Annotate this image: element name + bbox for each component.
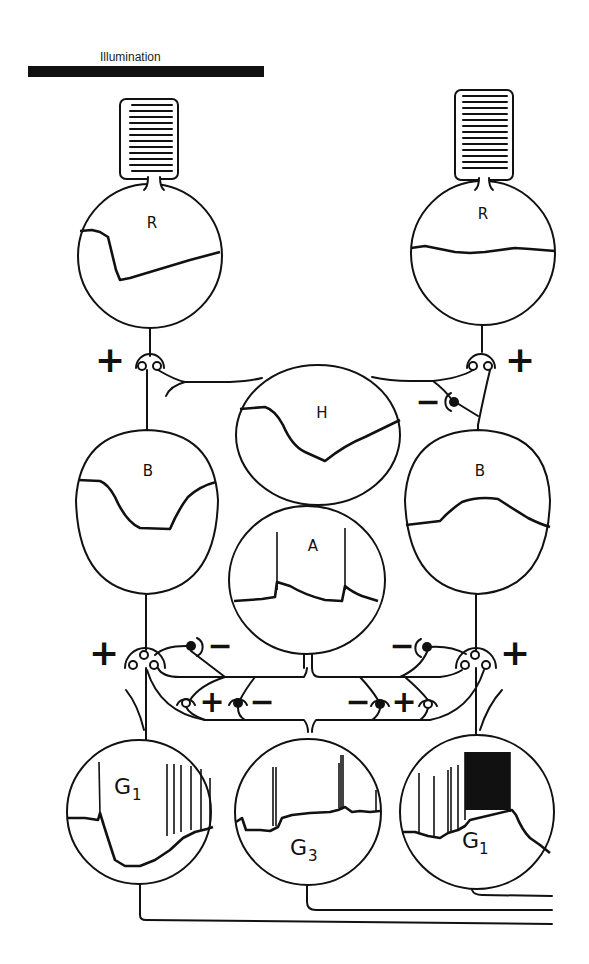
ganglion-center-subscript: 3 — [308, 847, 318, 865]
sign-plus-r-right: + — [505, 339, 535, 380]
receptor-terminal-right — [467, 354, 495, 370]
bipolar-right: B — [405, 430, 550, 650]
illumination-label: Illumination — [100, 50, 161, 64]
receptor-right-label: R — [478, 205, 488, 223]
illumination-bar — [28, 66, 264, 77]
sign-plus-a-right-lower: + — [391, 684, 416, 719]
sign-plus-b-right: + — [500, 632, 530, 673]
sign-minus-a-right-upper: − — [389, 628, 414, 663]
retina-circuit-diagram: Illumination R R — [0, 0, 589, 964]
ganglion-right-subscript: 1 — [479, 840, 489, 858]
ganglion-center-label: G — [290, 835, 307, 860]
sign-minus-h: − — [415, 384, 440, 419]
horizontal-cell: H — [236, 365, 400, 505]
sign-minus-a-left-lower: − — [249, 684, 274, 719]
ganglion-left-label: G — [114, 774, 131, 799]
sign-minus-a-left-upper: − — [207, 628, 232, 663]
bipolar-right-label: B — [475, 462, 485, 480]
outer-segment-right — [455, 90, 513, 180]
ganglion-right-burst — [465, 752, 510, 810]
bipolar-left: B — [76, 430, 218, 650]
ganglion-right: G 1 — [400, 735, 554, 896]
ganglion-right-label: G — [462, 828, 479, 853]
sign-minus-a-right-lower: − — [345, 684, 370, 719]
amacrine-cell-label: A — [308, 537, 319, 555]
bipolar-left-label: B — [143, 462, 153, 480]
sign-plus-r-left: + — [95, 339, 125, 380]
receptor-right: R — [411, 90, 555, 352]
ganglion-left-subscript: 1 — [132, 786, 142, 804]
amacrine-cell: A — [229, 506, 385, 668]
sign-plus-a-left-lower: + — [199, 684, 224, 719]
horizontal-cell-label: H — [316, 404, 327, 422]
receptor-left-label: R — [147, 214, 157, 232]
sign-plus-b-left: + — [89, 632, 119, 673]
receptor-terminal-left — [136, 352, 164, 370]
receptor-left: R — [78, 99, 222, 355]
